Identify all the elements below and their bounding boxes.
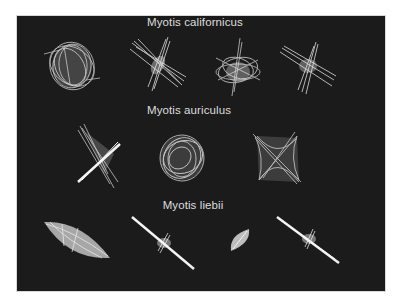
call-plot-auriculus-2 (156, 132, 208, 184)
call-plot-californicus-3 (214, 36, 262, 100)
species-label-auriculus: Myotis auriculus (147, 104, 231, 116)
call-plot-californicus-1 (40, 36, 104, 96)
call-plot-liebii-4 (275, 215, 341, 265)
call-plot-auriculus-3 (251, 130, 303, 186)
call-plot-californicus-2 (128, 37, 188, 95)
call-plot-californicus-4 (278, 40, 338, 96)
call-plot-liebii-2 (130, 215, 196, 271)
species-label-californicus: Myotis californicus (147, 16, 243, 28)
call-plot-liebii-3 (229, 227, 251, 253)
call-plot-auriculus-1 (74, 124, 124, 190)
species-label-liebii: Myotis liebii (163, 199, 224, 211)
call-plot-liebii-1 (42, 218, 112, 260)
